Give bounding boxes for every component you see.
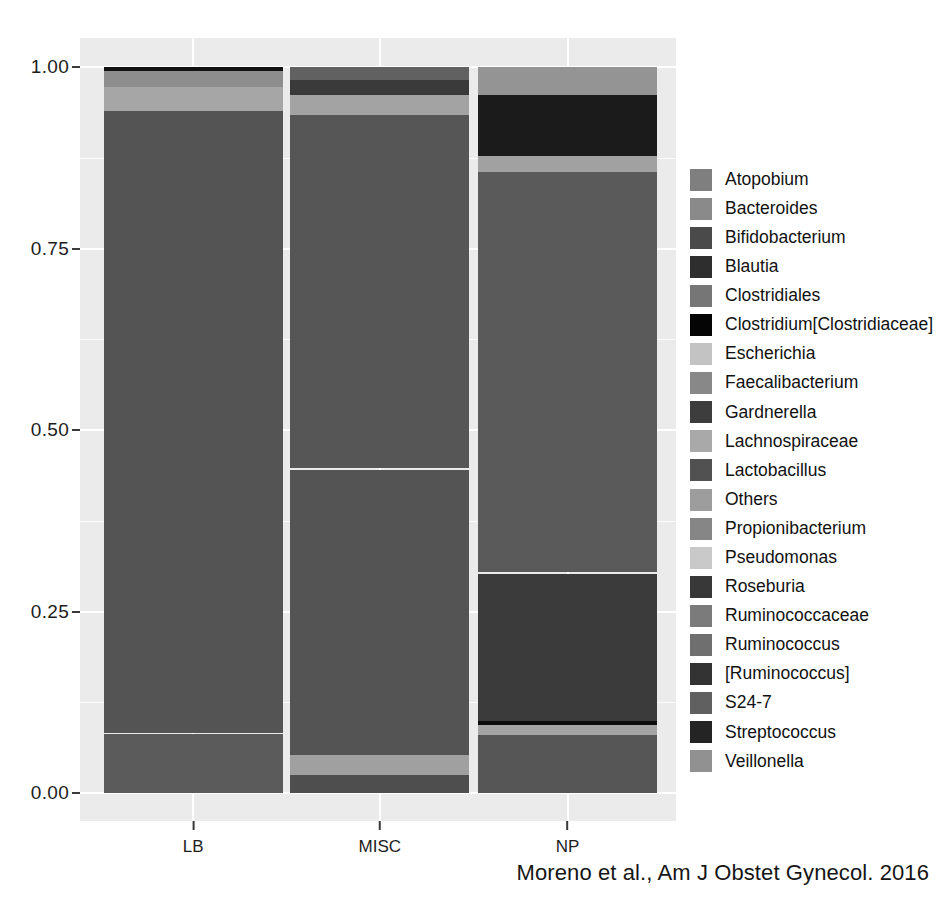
y-axis-tick-label: 0.50 bbox=[31, 420, 72, 440]
legend-swatch-icon bbox=[690, 518, 712, 540]
legend-item: Propionibacterium bbox=[690, 514, 937, 543]
bar-segment[interactable] bbox=[478, 725, 657, 734]
y-axis-tick-mark bbox=[72, 611, 80, 613]
x-axis-tick: LB bbox=[183, 821, 204, 857]
legend-item-label: Others bbox=[725, 491, 778, 509]
bar-segment[interactable] bbox=[478, 172, 657, 573]
bar-segment[interactable] bbox=[290, 775, 469, 793]
legend-item: Blautia bbox=[690, 252, 937, 281]
bar-segment[interactable] bbox=[104, 87, 283, 110]
bar-segment[interactable] bbox=[290, 115, 469, 468]
legend-item: Streptococcus bbox=[690, 718, 937, 747]
y-axis-tick-mark bbox=[72, 66, 80, 68]
legend-item: Ruminococcus bbox=[690, 631, 937, 660]
legend-item-label: Streptococcus bbox=[725, 724, 836, 742]
legend-item: S24-7 bbox=[690, 689, 937, 718]
x-axis-tick-label: NP bbox=[556, 837, 580, 857]
legend-item: Gardnerella bbox=[690, 398, 937, 427]
legend-item: Bifidobacterium bbox=[690, 223, 937, 252]
legend-item-label: Faecalibacterium bbox=[725, 374, 858, 392]
legend: AtopobiumBacteroidesBifidobacteriumBlaut… bbox=[690, 165, 937, 776]
legend-item-label: Escherichia bbox=[725, 345, 815, 363]
legend-item-label: Lactobacillus bbox=[725, 462, 826, 480]
legend-item-label: Gardnerella bbox=[725, 404, 816, 422]
legend-swatch-icon bbox=[690, 692, 712, 714]
legend-swatch-icon bbox=[690, 547, 712, 569]
legend-item-label: Ruminococcaceae bbox=[725, 607, 869, 625]
bar-np[interactable] bbox=[478, 67, 657, 793]
x-axis-tick: MISC bbox=[359, 821, 402, 857]
legend-swatch-icon bbox=[690, 285, 712, 307]
y-axis-tick: 0.00 bbox=[31, 783, 80, 803]
legend-item: Lactobacillus bbox=[690, 456, 937, 485]
bar-segment[interactable] bbox=[104, 734, 283, 793]
bar-segment[interactable] bbox=[290, 80, 469, 95]
legend-item: Pseudomonas bbox=[690, 543, 937, 572]
legend-swatch-icon bbox=[690, 198, 712, 220]
legend-item-label: S24-7 bbox=[725, 694, 772, 712]
legend-item-label: Roseburia bbox=[725, 578, 805, 596]
legend-item: Faecalibacterium bbox=[690, 369, 937, 398]
bar-segment[interactable] bbox=[290, 67, 469, 80]
legend-item: Bacteroides bbox=[690, 194, 937, 223]
legend-item: Ruminococcaceae bbox=[690, 601, 937, 630]
legend-swatch-icon bbox=[690, 401, 712, 423]
bar-segment[interactable] bbox=[478, 735, 657, 793]
legend-item-label: Clostridiales bbox=[725, 287, 820, 305]
bar-segment[interactable] bbox=[290, 95, 469, 115]
legend-item: Others bbox=[690, 485, 937, 514]
legend-item-label: Clostridium[Clostridiaceae] bbox=[725, 316, 933, 334]
x-axis-tick: NP bbox=[556, 821, 580, 857]
bar-segment[interactable] bbox=[478, 95, 657, 156]
figure-caption: Moreno et al., Am J Obstet Gynecol. 2016 bbox=[517, 860, 929, 886]
legend-item: Clostridiales bbox=[690, 281, 937, 310]
y-axis-tick-label: 0.75 bbox=[31, 239, 72, 259]
bar-segment[interactable] bbox=[478, 67, 657, 95]
legend-item-label: Pseudomonas bbox=[725, 549, 837, 567]
x-axis-tick-label: MISC bbox=[359, 837, 402, 857]
legend-swatch-icon bbox=[690, 372, 712, 394]
y-axis: 0.000.250.500.751.00 bbox=[0, 38, 80, 808]
legend-swatch-icon bbox=[690, 605, 712, 627]
legend-item-label: Atopobium bbox=[725, 171, 809, 189]
y-axis-tick: 0.50 bbox=[31, 420, 80, 440]
legend-item-label: Blautia bbox=[725, 258, 779, 276]
y-axis-tick-label: 0.25 bbox=[31, 602, 72, 622]
legend-item-label: Ruminococcus bbox=[725, 636, 840, 654]
legend-swatch-icon bbox=[690, 459, 712, 481]
bar-lb[interactable] bbox=[104, 67, 283, 793]
stacked-bar-chart-figure: 0.000.250.500.751.00 LBMISCNP AtopobiumB… bbox=[0, 0, 937, 918]
legend-item-label: Propionibacterium bbox=[725, 520, 866, 538]
legend-item: Roseburia bbox=[690, 572, 937, 601]
y-axis-tick-label: 0.00 bbox=[31, 783, 72, 803]
y-axis-tick: 0.25 bbox=[31, 602, 80, 622]
legend-item: Veillonella bbox=[690, 747, 937, 776]
legend-item: Clostridium[Clostridiaceae] bbox=[690, 310, 937, 339]
bar-segment[interactable] bbox=[104, 71, 283, 87]
x-axis-tick-mark bbox=[567, 821, 569, 830]
bar-misc[interactable] bbox=[290, 67, 469, 793]
bar-segment[interactable] bbox=[290, 470, 469, 755]
bar-segment[interactable] bbox=[478, 156, 657, 172]
legend-item: [Ruminococcus] bbox=[690, 660, 937, 689]
legend-swatch-icon bbox=[690, 314, 712, 336]
legend-swatch-icon bbox=[690, 721, 712, 743]
plot-panel bbox=[80, 38, 676, 821]
legend-swatch-icon bbox=[690, 169, 712, 191]
y-axis-tick: 1.00 bbox=[31, 57, 80, 77]
y-axis-tick-mark bbox=[72, 792, 80, 794]
bar-segment[interactable] bbox=[478, 574, 657, 721]
legend-swatch-icon bbox=[690, 343, 712, 365]
bar-segment[interactable] bbox=[290, 755, 469, 775]
y-axis-tick-mark bbox=[72, 248, 80, 250]
y-axis-tick-label: 1.00 bbox=[31, 57, 72, 77]
y-axis-tick: 0.75 bbox=[31, 239, 80, 259]
x-axis-tick-mark bbox=[379, 821, 381, 830]
bar-segment[interactable] bbox=[104, 111, 283, 733]
legend-swatch-icon bbox=[690, 750, 712, 772]
legend-item: Atopobium bbox=[690, 165, 937, 194]
legend-item-label: [Ruminococcus] bbox=[725, 665, 850, 683]
legend-swatch-icon bbox=[690, 663, 712, 685]
legend-item-label: Bacteroides bbox=[725, 200, 817, 218]
legend-swatch-icon bbox=[690, 576, 712, 598]
